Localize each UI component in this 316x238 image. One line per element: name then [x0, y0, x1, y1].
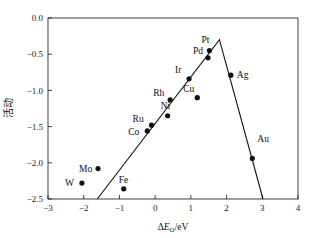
y-tick-label: −0.5 — [27, 49, 44, 59]
data-point-co — [145, 128, 150, 133]
x-axis-tick-labels: −3−2−101234 — [43, 203, 301, 213]
point-label-ag: Ag — [237, 70, 249, 80]
y-tick-label: −2.0 — [27, 158, 44, 168]
point-label-mo: Mo — [79, 164, 92, 174]
x-axis-title: ΔEO/eV — [158, 222, 189, 234]
point-label-w: W — [65, 178, 74, 188]
y-tick-label: −2.5 — [27, 194, 44, 204]
y-axis-title: 活动 — [3, 98, 14, 118]
data-point-pt — [207, 48, 212, 53]
data-point-mo — [95, 166, 100, 171]
data-point-fe — [121, 186, 126, 191]
x-tick-label: 0 — [153, 203, 158, 213]
x-axis-ticks — [48, 195, 298, 199]
data-point-pd — [205, 55, 210, 60]
point-label-ru: Ru — [133, 114, 144, 124]
point-label-pt: Pt — [201, 35, 209, 45]
data-point-ni — [165, 113, 170, 118]
data-point-ag — [228, 73, 233, 78]
data-point-cu — [195, 95, 200, 100]
data-point-ir — [186, 76, 191, 81]
x-tick-label: 2 — [224, 203, 229, 213]
x-tick-label: 3 — [260, 203, 265, 213]
point-label-fe: Fe — [119, 175, 129, 185]
y-tick-label: −1.0 — [27, 86, 44, 96]
y-tick-label: 0.0 — [32, 13, 44, 23]
point-label-ni: Ni — [161, 101, 171, 111]
point-label-au: Au — [257, 134, 269, 144]
point-label-co: Co — [128, 127, 139, 137]
data-point-au — [250, 156, 255, 161]
point-label-rh: Rh — [153, 88, 164, 98]
y-axis-ticks — [48, 18, 52, 199]
point-label-cu: Cu — [183, 84, 194, 94]
point-label-ir: Ir — [175, 65, 182, 75]
y-axis-tick-labels: 0.0−0.5−1.0−1.5−2.0−2.5 — [27, 13, 44, 204]
chart-figure: −3−2−101234 0.0−0.5−1.0−1.5−2.0−2.5 WMoF… — [0, 0, 316, 238]
x-tick-label: 4 — [296, 203, 301, 213]
y-tick-label: −1.5 — [27, 122, 44, 132]
data-point-w — [79, 180, 84, 185]
volcano-plot: −3−2−101234 0.0−0.5−1.0−1.5−2.0−2.5 WMoF… — [0, 0, 316, 238]
data-point-ru — [149, 123, 154, 128]
x-tick-label: 1 — [189, 203, 194, 213]
x-tick-label: −2 — [79, 203, 89, 213]
x-tick-label: −1 — [115, 203, 125, 213]
data-point-group — [79, 48, 255, 191]
point-label-pd: Pd — [193, 46, 203, 56]
x-tick-label: −3 — [43, 203, 53, 213]
